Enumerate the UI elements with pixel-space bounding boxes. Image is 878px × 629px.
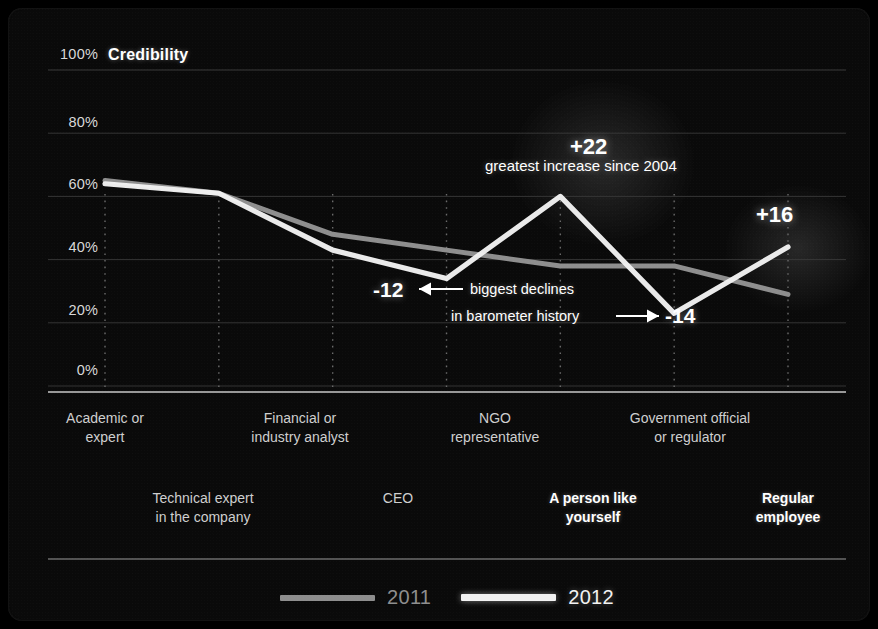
- arrow-to-minus14-head: [647, 310, 659, 323]
- y-tick-80: 80%: [42, 114, 98, 130]
- legend-swatch-2011: [280, 595, 375, 601]
- x-label-government-official: Government officialor regulator: [630, 409, 750, 447]
- category-tick-lines: [105, 194, 788, 388]
- legend-label-2011: 2011: [387, 586, 431, 609]
- x-label-regular-employee: Regularemployee: [756, 489, 821, 527]
- line-chart-canvas: [8, 8, 870, 621]
- legend-item-2011[interactable]: 2011: [280, 586, 431, 609]
- legend-label-2012: 2012: [568, 586, 614, 609]
- x-label-academic-or-expert: Academic orexpert: [66, 409, 144, 447]
- y-tick-0: 0%: [42, 362, 98, 378]
- x-label-financial-analyst: Financial orindustry analyst: [251, 409, 348, 447]
- y-tick-20: 20%: [42, 302, 98, 318]
- annotation-text-in-barometer-history: in barometer history: [451, 308, 579, 324]
- chart-panel: 100% 80% 60% 40% 20% 0% Credibility Acad…: [8, 8, 870, 621]
- y-tick-40: 40%: [42, 239, 98, 255]
- arrow-to-minus12-head: [419, 283, 431, 296]
- legend-swatch-2012: [461, 594, 556, 601]
- annotation-value-plus16: +16: [756, 202, 793, 228]
- chart-legend: 2011 2012: [8, 586, 870, 609]
- x-label-a-person-like-yourself: A person likeyourself: [549, 489, 636, 527]
- annotation-text-biggest-declines: biggest declines: [470, 281, 574, 297]
- y-tick-100: 100%: [42, 46, 98, 62]
- annotation-value-minus12: -12: [373, 278, 403, 302]
- chart-screenshot: 100% 80% 60% 40% 20% 0% Credibility Acad…: [0, 0, 878, 629]
- annotation-text-greatest-increase: greatest increase since 2004: [485, 157, 677, 174]
- y-tick-60: 60%: [42, 176, 98, 192]
- legend-item-2012[interactable]: 2012: [461, 586, 614, 609]
- x-label-ngo-representative: NGOrepresentative: [451, 409, 540, 447]
- x-label-technical-expert: Technical expertin the company: [152, 489, 253, 527]
- annotation-value-minus14: -14: [665, 304, 695, 328]
- x-label-ceo: CEO: [383, 489, 413, 508]
- page-title: Credibility: [108, 46, 188, 64]
